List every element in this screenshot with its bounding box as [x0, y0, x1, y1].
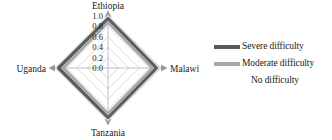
axis-label-malawi: Malawi: [170, 64, 199, 74]
legend-item-severe-difficulty: Severe difficulty: [214, 38, 332, 55]
tick-label-0.8: 0.8: [92, 21, 103, 31]
legend-label-moderate-difficulty: Moderate difficulty: [242, 58, 314, 69]
tick-label-1.0: 1.0: [92, 11, 103, 21]
legend-item-moderate-difficulty: Moderate difficulty: [214, 55, 332, 72]
arrowhead-malawi: [161, 65, 168, 72]
legend-label-severe-difficulty: Severe difficulty: [242, 41, 304, 52]
arrowhead-uganda: [49, 65, 56, 72]
axis-label-ethiopia: Ethiopia: [92, 1, 125, 11]
tick-label-0.4: 0.4: [92, 42, 103, 52]
legend-item-no-difficulty: No difficulty: [214, 72, 332, 89]
legend-swatch-severe-difficulty: [214, 45, 240, 49]
chart-legend: Severe difficulty Moderate difficulty No…: [214, 38, 332, 96]
legend-swatch-moderate-difficulty: [214, 62, 240, 66]
radial-tick-labels: 1.0 0.8 0.6 0.4 0.2 0.0: [92, 11, 103, 73]
tick-label-0.6: 0.6: [92, 32, 103, 42]
axis-label-tanzania: Tanzania: [91, 128, 126, 138]
radar-plot-area: 1.0 0.8 0.6 0.4 0.2 0.0 Ethiopia Malawi …: [0, 0, 210, 140]
tick-label-0.2: 0.2: [92, 53, 103, 63]
radar-chart-figure: 1.0 0.8 0.6 0.4 0.2 0.0 Ethiopia Malawi …: [0, 0, 332, 140]
legend-swatch-no-difficulty: [223, 79, 249, 83]
legend-label-no-difficulty: No difficulty: [251, 75, 299, 86]
radar-axis-spokes: [49, 11, 168, 126]
axis-label-uganda: Uganda: [16, 64, 46, 74]
radar-plot-svg: 1.0 0.8 0.6 0.4 0.2 0.0 Ethiopia Malawi …: [0, 0, 210, 140]
tick-label-0.0: 0.0: [92, 63, 103, 73]
